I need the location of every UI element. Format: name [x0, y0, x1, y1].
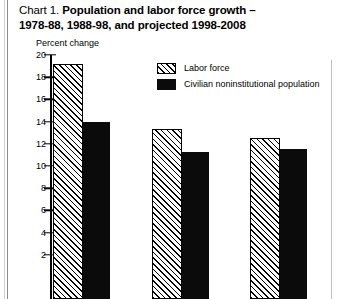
- y-axis-tick-label: 10: [26, 162, 46, 171]
- y-axis-tick-label: 20: [26, 51, 46, 60]
- y-axis-tick-mark: [44, 54, 56, 55]
- y-axis-tick-label: 4: [26, 228, 46, 237]
- bar: [280, 149, 307, 299]
- bar: [53, 64, 83, 299]
- bar: [83, 122, 110, 299]
- bar: [250, 138, 280, 299]
- y-axis-tick-label: 12: [26, 139, 46, 148]
- legend-label: Civilian noninstitutional population: [184, 78, 320, 91]
- y-axis-tick-label: 2: [26, 250, 46, 259]
- y-axis-tick-label: 6: [26, 206, 46, 215]
- y-axis-tick-label: 16: [26, 95, 46, 104]
- bar-chart-plot: 2018161412108642: [0, 0, 350, 299]
- y-axis-tick-label: 18: [26, 73, 46, 82]
- y-axis-tick-label: 8: [26, 184, 46, 193]
- y-axis-line: [50, 55, 52, 299]
- legend-swatch-solid: [157, 79, 176, 90]
- bar: [152, 129, 182, 299]
- y-axis-tick-label: 14: [26, 117, 46, 126]
- bar: [182, 152, 209, 299]
- legend-swatch-hatch: [157, 63, 176, 74]
- legend-label: Labor force: [184, 62, 230, 75]
